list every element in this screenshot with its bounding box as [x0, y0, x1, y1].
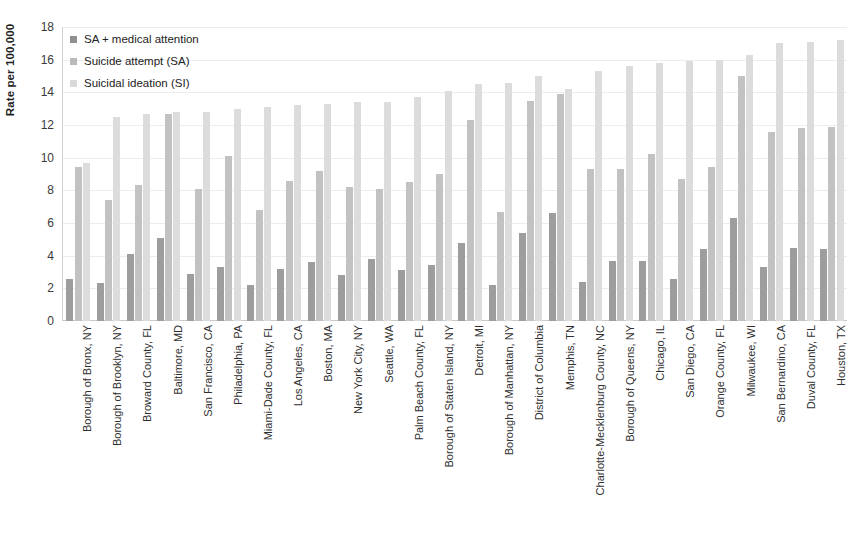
y-axis-tick: 0: [26, 314, 54, 328]
bar: [97, 283, 104, 321]
x-axis-tick-cell: Orange County, FL: [695, 323, 725, 523]
bar: [277, 269, 284, 321]
bar: [127, 254, 134, 321]
x-axis-tick-cell: Chicago, IL: [635, 323, 665, 523]
bar-group: [636, 27, 666, 321]
bar: [639, 261, 646, 321]
x-axis-tick-cell: Duval County, FL: [786, 323, 816, 523]
y-axis-title: Rate per 100,000: [4, 0, 16, 150]
y-axis-tick: 12: [26, 118, 54, 132]
bar: [716, 60, 723, 321]
bar: [324, 104, 331, 321]
bar: [798, 128, 805, 321]
bar-group: [365, 27, 395, 321]
bar: [436, 174, 443, 321]
bar: [557, 94, 564, 321]
legend-item-suicidal-ideation: Suicidal ideation (SI): [70, 72, 199, 94]
bar-group: [817, 27, 847, 321]
bar: [700, 249, 707, 321]
chart-legend: SA + medical attention Suicide attempt (…: [70, 28, 199, 94]
bar: [135, 185, 142, 321]
bar: [768, 132, 775, 321]
bar-group: [244, 27, 274, 321]
bar: [173, 112, 180, 321]
bar: [294, 105, 301, 321]
x-axis-tick-cell: New York City, NY: [333, 323, 363, 523]
bar: [670, 279, 677, 321]
bar: [75, 167, 82, 321]
bar-group: [395, 27, 425, 321]
x-axis-tick-cell: Detroit, MI: [454, 323, 484, 523]
y-axis-tick: 16: [26, 53, 54, 67]
bar-group: [546, 27, 576, 321]
bar: [203, 112, 210, 321]
bar: [225, 156, 232, 321]
x-axis-tick-cell: District of Columbia: [514, 323, 544, 523]
x-axis-tick-cell: San Francisco, CA: [183, 323, 213, 523]
x-axis-tick-cell: Borough of Queens, NY: [605, 323, 635, 523]
bar: [376, 189, 383, 321]
bar-group: [576, 27, 606, 321]
bar-group: [304, 27, 334, 321]
y-axis-tick: 8: [26, 183, 54, 197]
bar-group: [757, 27, 787, 321]
bar: [338, 275, 345, 321]
bar-group: [666, 27, 696, 321]
legend-swatch-icon: [70, 80, 77, 87]
bar-group: [214, 27, 244, 321]
bar: [346, 187, 353, 321]
bar: [505, 83, 512, 321]
bar: [165, 114, 172, 321]
bar: [678, 179, 685, 321]
bar-group: [696, 27, 726, 321]
bar: [157, 238, 164, 321]
x-axis-tick-cell: Seattle, WA: [364, 323, 394, 523]
bar: [595, 71, 602, 321]
bar: [398, 270, 405, 321]
bar: [807, 42, 814, 321]
bar: [549, 213, 556, 321]
bar: [195, 189, 202, 321]
bar: [384, 102, 391, 321]
bar: [837, 40, 844, 321]
bar: [730, 218, 737, 321]
bar: [83, 163, 90, 321]
bar: [587, 169, 594, 321]
bar-group: [274, 27, 304, 321]
bar: [790, 248, 797, 322]
bar: [527, 101, 534, 322]
bar-group: [485, 27, 515, 321]
x-axis-tick-cell: Philadelphia, PA: [213, 323, 243, 523]
legend-swatch-icon: [70, 36, 77, 43]
bar: [445, 91, 452, 321]
bar: [535, 76, 542, 321]
bar: [316, 171, 323, 321]
bar: [113, 117, 120, 321]
y-axis-tick: 18: [26, 20, 54, 34]
x-axis-tick-cell: Milwaukee, WI: [725, 323, 755, 523]
y-axis-tick: 10: [26, 151, 54, 165]
x-axis-tick-cell: Memphis, TN: [545, 323, 575, 523]
bar: [648, 154, 655, 321]
x-axis-tick-cell: Borough of Staten Island, NY: [424, 323, 454, 523]
bar: [458, 243, 465, 321]
bar: [467, 120, 474, 321]
bar: [565, 89, 572, 321]
x-axis-tick-cell: Baltimore, MD: [152, 323, 182, 523]
legend-swatch-icon: [70, 58, 77, 65]
y-axis-tick: 14: [26, 85, 54, 99]
bar: [66, 279, 73, 321]
bar: [746, 55, 753, 321]
bar: [247, 285, 254, 321]
x-axis-tick-cell: Miami-Dade County, FL: [243, 323, 273, 523]
bar: [475, 84, 482, 321]
x-axis-tick-cell: Los Angeles, CA: [273, 323, 303, 523]
bar: [828, 127, 835, 321]
x-axis-tick-cell: Charlotte-Mecklenburg County, NC: [575, 323, 605, 523]
bar: [368, 259, 375, 321]
bar: [617, 169, 624, 321]
y-axis-tick-labels: 181614121086420: [24, 20, 58, 321]
bar-group: [787, 27, 817, 321]
bar: [105, 200, 112, 321]
x-axis-tick-cell: Boston, MA: [303, 323, 333, 523]
